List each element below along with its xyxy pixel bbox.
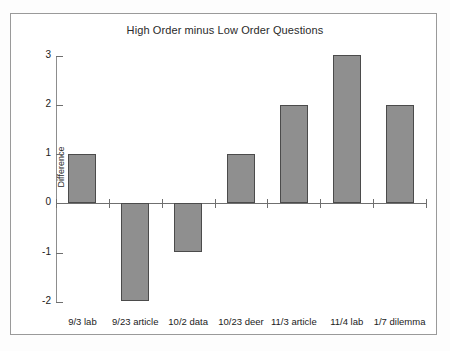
bar-group: 10/23 deer [215,50,268,308]
bar[interactable] [333,55,361,203]
x-axis-label: 9/3 lab [68,316,97,327]
x-tick [215,199,216,208]
y-tick-label-3: 3 [45,49,51,60]
x-tick [56,199,57,208]
chart-title: High Order minus Low Order Questions [0,24,450,36]
plot-area: Difference 3 2 1 0 -1 -2 9/3 lab9/23 art… [56,50,426,308]
x-axis-label: 9/23 article [112,316,158,327]
x-axis-label: 10/23 deer [218,316,263,327]
y-tick-label-2: 2 [45,98,51,109]
y-tick-label-neg2: -2 [42,295,51,306]
bar-group: 11/3 article [267,50,320,308]
bar-group: 11/4 lab [320,50,373,308]
bar[interactable] [68,154,96,203]
x-tick [373,199,374,208]
x-axis-label: 10/2 data [168,316,208,327]
x-tick [426,199,427,208]
y-tick-label-0: 0 [45,196,51,207]
bar[interactable] [280,105,308,203]
bar[interactable] [227,154,255,203]
x-axis-label: 11/3 article [271,316,317,327]
bar[interactable] [386,105,414,203]
bar[interactable] [121,203,149,301]
x-tick [162,199,163,208]
bar-series: 9/3 lab9/23 article10/2 data10/23 deer11… [56,50,426,308]
bar-group: 10/2 data [162,50,215,308]
figure-canvas: High Order minus Low Order Questions Dif… [0,0,450,351]
bar[interactable] [174,203,202,252]
x-tick [109,199,110,208]
bar-group: 9/3 lab [56,50,109,308]
y-tick-label-1: 1 [45,147,51,158]
bar-group: 9/23 article [109,50,162,308]
x-tick [267,199,268,208]
y-tick-label-neg1: -1 [42,246,51,257]
x-axis-label: 1/7 dilemma [374,316,426,327]
bar-group: 1/7 dilemma [373,50,426,308]
x-tick [320,199,321,208]
x-axis-label: 11/4 lab [330,316,363,327]
